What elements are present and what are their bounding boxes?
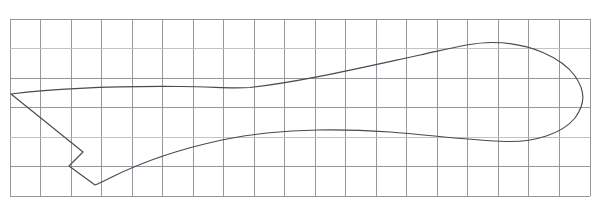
figure-canvas <box>0 0 600 206</box>
foil-profile-figure <box>0 0 600 206</box>
figure-background <box>0 0 600 206</box>
